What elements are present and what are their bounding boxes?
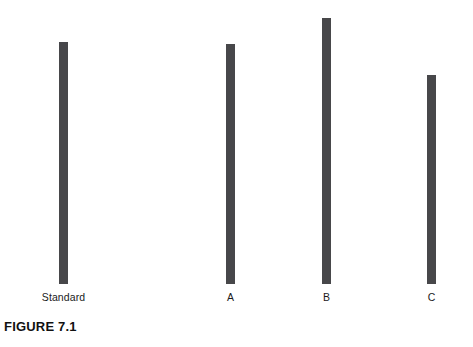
figure-7-1: Standard A B C FIGURE 7.1 bbox=[0, 0, 473, 347]
bar-label-c: C bbox=[428, 291, 436, 303]
bar-label-a: A bbox=[227, 291, 234, 303]
bar-plot-area: Standard A B C bbox=[0, 0, 473, 290]
bar-b bbox=[322, 18, 331, 284]
bar-label-b: B bbox=[323, 291, 330, 303]
bar-a bbox=[226, 44, 235, 284]
figure-caption: FIGURE 7.1 bbox=[4, 319, 77, 334]
bar-label-standard: Standard bbox=[42, 291, 85, 303]
bar-c bbox=[427, 75, 436, 284]
bar-standard bbox=[59, 42, 68, 284]
